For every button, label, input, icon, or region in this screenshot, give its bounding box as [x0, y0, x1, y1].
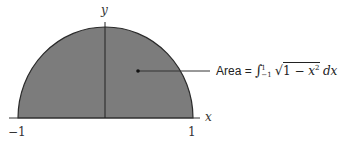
equals-sign: =	[245, 64, 252, 78]
radicand: 1 − x2	[283, 62, 320, 78]
lower-limit: −1	[261, 72, 271, 79]
x-tick-minus-one: −1	[8, 126, 26, 138]
x-tick-one: 1	[188, 126, 196, 138]
annotation-pointer-dot	[136, 69, 140, 73]
y-axis-label: y	[101, 4, 108, 16]
area-word: Area	[216, 64, 241, 78]
x-axis-label: x	[205, 111, 212, 123]
differential: dx	[323, 64, 337, 78]
sqrt-sign: √	[275, 63, 283, 78]
radicand-prefix: 1 −	[283, 64, 308, 78]
radicand-exponent: 2	[315, 64, 319, 72]
area-formula: Area = ∫1−1√1 − x2 dx	[216, 63, 337, 79]
integral-limits: 1−1	[261, 65, 271, 79]
